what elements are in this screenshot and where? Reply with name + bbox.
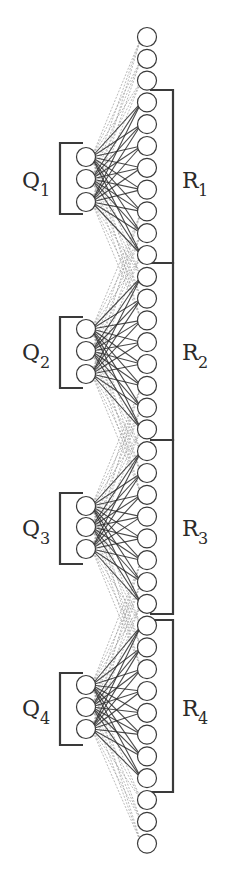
weak-edge <box>92 81 142 157</box>
r-label-subscript: 2 <box>198 353 208 372</box>
q-label: Q <box>22 696 40 721</box>
right-node <box>138 660 157 679</box>
weak-edge <box>92 37 142 157</box>
strong-edge <box>92 374 142 386</box>
r-label-subscript: 4 <box>198 709 208 728</box>
query-node <box>77 518 96 537</box>
query-node <box>77 170 96 189</box>
weak-edge <box>92 386 142 549</box>
query-nodes <box>77 148 96 739</box>
strong-edge <box>92 729 142 778</box>
weak-edge <box>92 59 142 179</box>
strong-edge <box>92 626 142 707</box>
q-label-subscript: 1 <box>40 181 50 200</box>
right-node <box>138 485 157 504</box>
right-node <box>138 616 157 635</box>
query-node <box>77 676 96 695</box>
weak-edge <box>92 386 142 527</box>
right-node <box>138 464 157 483</box>
right-node <box>138 224 157 243</box>
weak-edge <box>92 386 142 506</box>
weak-edge <box>92 211 142 351</box>
query-node <box>77 497 96 516</box>
right-node <box>138 137 157 156</box>
right-node <box>138 376 157 395</box>
weak-edge <box>92 560 142 707</box>
strong-edge <box>92 190 142 202</box>
right-node <box>138 289 157 308</box>
right-node <box>138 180 157 199</box>
right-node <box>138 703 157 722</box>
q-label: Q <box>22 168 40 193</box>
query-node <box>77 540 96 559</box>
network-diagram: Q1R1Q2R2Q3R3Q4R4 <box>0 0 227 886</box>
weak-edge <box>92 374 142 451</box>
right-node <box>138 442 157 461</box>
strong-edge <box>92 374 142 429</box>
right-node <box>138 71 157 90</box>
right-node <box>138 398 157 417</box>
right-node <box>138 93 157 112</box>
r-label-subscript: 1 <box>198 181 208 200</box>
right-node <box>138 769 157 788</box>
right-node <box>138 115 157 134</box>
right-node <box>138 812 157 831</box>
strong-edge <box>92 451 142 527</box>
weak-edge <box>92 527 142 669</box>
query-node <box>77 698 96 717</box>
q-label: Q <box>22 340 40 365</box>
right-node <box>138 267 157 286</box>
strong-edge <box>92 124 142 202</box>
right-node <box>138 507 157 526</box>
r-label-subscript: 3 <box>198 529 208 548</box>
q-label-subscript: 3 <box>40 529 50 548</box>
group-labels: Q1R1Q2R2Q3R3Q4R4 <box>22 168 208 728</box>
right-node <box>138 834 157 853</box>
strong-edge <box>92 102 142 179</box>
weak-edge <box>92 549 142 626</box>
right-node <box>138 638 157 657</box>
query-node <box>77 193 96 212</box>
right-node <box>138 573 157 592</box>
right-node <box>138 594 157 613</box>
query-node <box>77 148 96 167</box>
weak-edge <box>92 549 142 669</box>
query-node <box>77 320 96 339</box>
q-label-subscript: 4 <box>40 709 50 728</box>
query-node <box>77 365 96 384</box>
weak-edge <box>92 374 142 473</box>
strong-edge <box>92 299 142 374</box>
strong-edge <box>92 626 142 729</box>
right-node <box>138 333 157 352</box>
right-node <box>138 551 157 570</box>
weak-edge <box>92 374 142 495</box>
right-node <box>138 49 157 68</box>
q-label: Q <box>22 516 40 541</box>
right-node <box>138 355 157 374</box>
q-label-subscript: 2 <box>40 353 50 372</box>
right-node <box>138 747 157 766</box>
right-node <box>138 682 157 701</box>
right-node <box>138 725 157 744</box>
right-node <box>138 311 157 330</box>
right-node <box>138 791 157 810</box>
strong-edge <box>92 647 142 729</box>
right-node <box>138 420 157 439</box>
query-node <box>77 720 96 739</box>
right-node <box>138 529 157 548</box>
right-node <box>138 202 157 221</box>
weak-edge <box>92 37 142 179</box>
right-node <box>138 158 157 177</box>
right-node <box>138 246 157 265</box>
query-node <box>77 342 96 361</box>
right-node <box>138 28 157 47</box>
